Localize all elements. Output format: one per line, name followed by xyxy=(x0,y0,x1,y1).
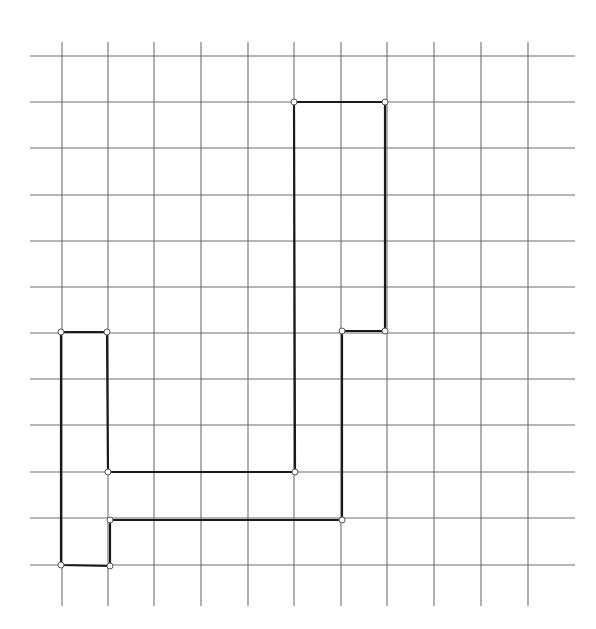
vertex-marker-6 xyxy=(107,563,113,569)
background xyxy=(0,0,596,629)
grid-polygon-diagram xyxy=(0,0,596,629)
vertex-marker-9 xyxy=(104,329,110,335)
vertex-marker-4 xyxy=(339,517,345,523)
vertex-marker-7 xyxy=(58,562,64,568)
vertex-marker-1 xyxy=(382,99,388,105)
vertex-marker-5 xyxy=(107,517,113,523)
vertex-marker-0 xyxy=(291,99,297,105)
vertex-marker-11 xyxy=(292,469,298,475)
vertex-marker-2 xyxy=(382,328,388,334)
vertex-marker-10 xyxy=(105,469,111,475)
vertex-marker-8 xyxy=(58,329,64,335)
vertex-marker-3 xyxy=(339,328,345,334)
